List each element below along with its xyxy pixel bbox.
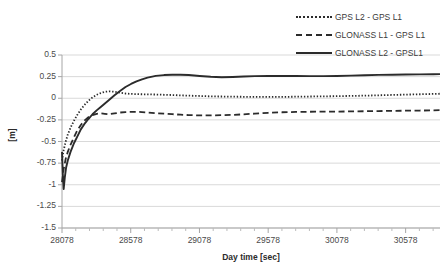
series-line-2	[62, 74, 440, 189]
x-tick-label-2: 29078	[169, 236, 229, 245]
series-line-0	[62, 91, 440, 160]
legend-item-gps-l2-gps-l1[interactable]: GPS L2 - GPS L1	[296, 10, 446, 23]
legend-item-glonass-l2-gps-l1[interactable]: GLONASS L2 - GPSL1	[296, 46, 446, 59]
gridlines	[62, 55, 440, 228]
y-tick-label-7: -1.25	[12, 201, 56, 210]
legend-label-0: GPS L2 - GPS L1	[335, 12, 402, 22]
legend-swatch-dotted-icon	[296, 12, 332, 22]
y-axis-title: [m]	[7, 115, 17, 155]
legend-label-1: GLONASS L1 - GPS L1	[335, 30, 425, 40]
x-tick-label-5: 30578	[376, 236, 436, 245]
chart-container: GPS L2 - GPS L1 GLONASS L1 - GPS L1 GLON…	[0, 0, 446, 270]
legend-label-2: GLONASS L2 - GPSL1	[335, 48, 423, 58]
y-tick-label-0: 0.5	[12, 50, 56, 59]
x-tick-label-4: 30078	[307, 236, 367, 245]
x-tick-label-1: 28578	[101, 236, 161, 245]
y-tick-label-3: -0.25	[12, 115, 56, 124]
y-tick-label-5: -0.75	[12, 158, 56, 167]
y-tick-label-8: -1.5	[12, 223, 56, 232]
y-tick-label-6: -1	[12, 180, 56, 189]
legend-swatch-solid-icon	[296, 48, 332, 58]
y-tick-label-2: 0	[12, 93, 56, 102]
y-tick-label-4: -0.5	[12, 137, 56, 146]
series-line-1	[62, 110, 440, 182]
x-tick-label-0: 28078	[32, 236, 92, 245]
y-tick-label-1: 0.25	[12, 72, 56, 81]
legend-item-glonass-l1-gps-l1[interactable]: GLONASS L1 - GPS L1	[296, 28, 446, 41]
x-tick-label-3: 29578	[238, 236, 298, 245]
x-axis-title: Day time [sec]	[62, 252, 440, 262]
legend-swatch-dashed-icon	[296, 30, 332, 40]
chart-legend: GPS L2 - GPS L1 GLONASS L1 - GPS L1 GLON…	[296, 10, 446, 59]
data-series-group	[62, 74, 440, 189]
